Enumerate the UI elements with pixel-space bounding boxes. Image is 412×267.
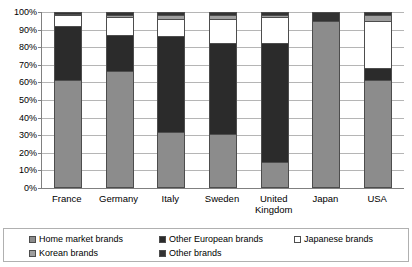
legend: Home market brandsOther European brandsJ… <box>3 228 409 262</box>
bar-segment[interactable] <box>313 22 339 187</box>
y-tick-label: 100% <box>14 8 37 17</box>
x-tick-label-line: France <box>41 193 93 204</box>
legend-item[interactable]: Korean brands <box>29 248 98 258</box>
x-tick-label: Sweden <box>196 193 248 215</box>
bar-segment[interactable] <box>158 20 184 37</box>
bars-layer <box>42 12 404 188</box>
bar-slot <box>42 12 94 188</box>
y-axis: 0%10%20%30%40%50%60%70%80%90%100% <box>0 8 40 192</box>
legend-swatch-icon <box>294 236 301 243</box>
x-tick-label: USA <box>351 193 403 215</box>
legend-label: Japanese brands <box>304 234 373 244</box>
x-tick-label-line: Kingdom <box>248 204 300 215</box>
stacked-bar-chart: 0%10%20%30%40%50%60%70%80%90%100% France… <box>0 0 412 267</box>
x-tick-label-line: USA <box>351 193 403 204</box>
bar-slot <box>145 12 197 188</box>
bar-segment[interactable] <box>210 135 236 187</box>
y-tick-label: 60% <box>19 78 37 87</box>
y-tick-label: 20% <box>19 148 37 157</box>
bar-segment[interactable] <box>107 18 133 35</box>
bar-segment[interactable] <box>313 13 339 22</box>
x-tick-label-line: Sweden <box>196 193 248 204</box>
bar-segment[interactable] <box>210 44 236 134</box>
bar-segment[interactable] <box>55 16 81 26</box>
legend-item[interactable]: Home market brands <box>29 234 123 244</box>
stacked-bar[interactable] <box>312 12 340 188</box>
y-tick-label: 10% <box>19 166 37 175</box>
stacked-bar[interactable] <box>261 12 289 188</box>
y-tick-label: 80% <box>19 43 37 52</box>
x-tick-label: Germany <box>93 193 145 215</box>
bar-segment[interactable] <box>262 163 288 187</box>
x-tick-label-line: Germany <box>93 193 145 204</box>
y-tick-label: 30% <box>19 131 37 140</box>
legend-swatch-icon <box>159 250 166 257</box>
legend-label: Korean brands <box>39 248 98 258</box>
legend-items: Home market brandsOther European brandsJ… <box>4 229 410 263</box>
bar-segment[interactable] <box>107 72 133 187</box>
y-tick-label: 90% <box>19 25 37 34</box>
stacked-bar[interactable] <box>157 12 185 188</box>
bar-segment[interactable] <box>365 69 391 81</box>
bar-segment[interactable] <box>107 36 133 73</box>
bar-segment[interactable] <box>210 20 236 44</box>
plot-wrapper: 0%10%20%30%40%50%60%70%80%90%100% <box>0 8 412 192</box>
bar-segment[interactable] <box>262 44 288 162</box>
legend-item[interactable]: Other European brands <box>159 234 263 244</box>
bar-slot <box>301 12 353 188</box>
bar-segment[interactable] <box>158 133 184 187</box>
x-axis: FranceGermanyItalySwedenUnitedKingdomJap… <box>41 193 403 215</box>
legend-swatch-icon <box>29 250 36 257</box>
legend-item[interactable]: Japanese brands <box>294 234 373 244</box>
y-tick-mark <box>38 188 42 189</box>
bar-segment[interactable] <box>158 37 184 133</box>
bar-segment[interactable] <box>365 81 391 187</box>
x-tick-label: Italy <box>144 193 196 215</box>
plot-area <box>41 12 404 189</box>
y-tick-label: 0% <box>24 184 37 193</box>
x-tick-label: UnitedKingdom <box>248 193 300 215</box>
legend-swatch-icon <box>29 236 36 243</box>
y-tick-label: 70% <box>19 60 37 69</box>
x-tick-label: France <box>41 193 93 215</box>
stacked-bar[interactable] <box>209 12 237 188</box>
x-tick-label-line: United <box>248 193 300 204</box>
x-tick-label-line: Japan <box>300 193 352 204</box>
bar-slot <box>352 12 404 188</box>
legend-label: Home market brands <box>39 234 123 244</box>
legend-swatch-icon <box>159 236 166 243</box>
y-tick-label: 40% <box>19 113 37 122</box>
bar-segment[interactable] <box>55 81 81 187</box>
bar-segment[interactable] <box>262 18 288 44</box>
legend-label: Other brands <box>169 248 222 258</box>
legend-item[interactable]: Other brands <box>159 248 222 258</box>
stacked-bar[interactable] <box>54 12 82 188</box>
y-tick-label: 50% <box>19 96 37 105</box>
bar-slot <box>249 12 301 188</box>
bar-segment[interactable] <box>365 22 391 69</box>
stacked-bar[interactable] <box>364 12 392 188</box>
bar-slot <box>94 12 146 188</box>
bar-slot <box>197 12 249 188</box>
stacked-bar[interactable] <box>106 12 134 188</box>
bar-segment[interactable] <box>55 27 81 81</box>
legend-label: Other European brands <box>169 234 263 244</box>
x-tick-label: Japan <box>300 193 352 215</box>
x-tick-label-line: Italy <box>144 193 196 204</box>
